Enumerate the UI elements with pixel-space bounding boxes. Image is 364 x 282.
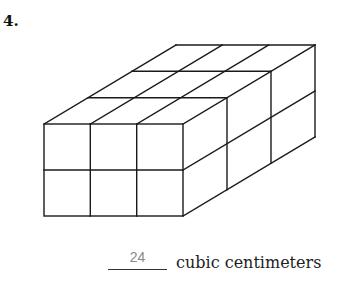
answer-value: 24 (130, 249, 146, 265)
unit-label: cubic centimeters (176, 253, 321, 272)
answer-blank[interactable]: 24 (108, 247, 167, 270)
cube-prism-figure (0, 0, 364, 282)
